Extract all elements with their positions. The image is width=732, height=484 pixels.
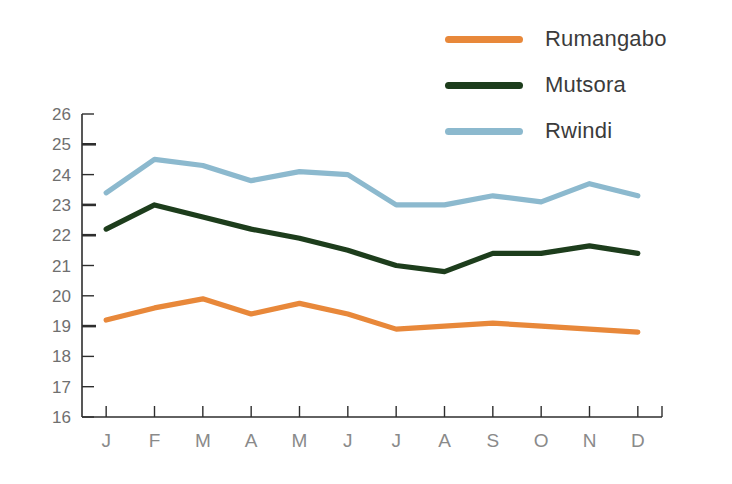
x-tick-label-2: M <box>195 430 211 451</box>
y-tick-group <box>82 114 96 417</box>
x-tick-label-8: S <box>486 430 499 451</box>
y-tick-label-16: 16 <box>52 408 71 427</box>
x-axis: JFMAMJJASOND <box>82 406 662 451</box>
y-tick-label-22: 22 <box>52 226 71 245</box>
x-tick-group <box>106 406 662 417</box>
y-tick-label-18: 18 <box>52 347 71 366</box>
x-tick-label-group: JFMAMJJASOND <box>101 430 644 451</box>
x-tick-label-10: N <box>583 430 597 451</box>
x-tick-label-6: J <box>391 430 401 451</box>
y-tick-label-17: 17 <box>52 378 71 397</box>
x-tick-label-7: A <box>438 430 451 451</box>
x-tick-label-5: J <box>343 430 353 451</box>
y-tick-label-group: 2625242322212019181716 <box>52 105 71 427</box>
x-tick-label-11: D <box>631 430 645 451</box>
x-tick-label-0: J <box>101 430 111 451</box>
y-tick-label-26: 26 <box>52 105 71 124</box>
x-tick-label-9: O <box>534 430 549 451</box>
x-tick-label-3: A <box>245 430 258 451</box>
x-tick-label-1: F <box>149 430 161 451</box>
series-line-rwindi <box>106 159 638 204</box>
y-tick-label-25: 25 <box>52 135 71 154</box>
series-line-mutsora <box>106 205 638 272</box>
y-tick-label-24: 24 <box>52 166 71 185</box>
x-tick-label-4: M <box>292 430 308 451</box>
y-tick-label-20: 20 <box>52 287 71 306</box>
y-tick-label-19: 19 <box>52 317 71 336</box>
y-tick-label-21: 21 <box>52 257 71 276</box>
y-tick-label-23: 23 <box>52 196 71 215</box>
line-chart: Rumangabo Mutsora Rwindi 262524232221201… <box>0 0 732 484</box>
y-axis: 2625242322212019181716 <box>52 105 96 427</box>
series-group <box>106 159 638 332</box>
plot-area: 2625242322212019181716 JFMAMJJASOND <box>0 0 732 484</box>
series-line-rumangabo <box>106 299 638 332</box>
